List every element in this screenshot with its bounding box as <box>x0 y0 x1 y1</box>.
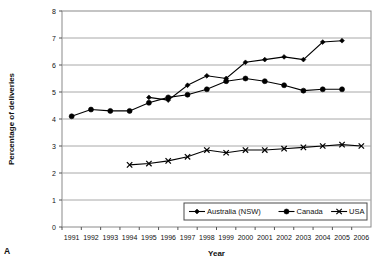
y-tick-label: 0 <box>52 224 56 231</box>
data-point-marker <box>108 108 113 113</box>
x-tick-label: 2000 <box>238 234 254 241</box>
x-tick-label: 1997 <box>180 234 196 241</box>
data-point-marker <box>284 209 289 214</box>
chart-figure: 0123456781991199219931994199519961997199… <box>0 0 377 263</box>
y-tick-label: 2 <box>52 170 56 177</box>
data-point-marker <box>320 87 325 92</box>
data-point-marker <box>204 87 209 92</box>
x-tick-label: 1996 <box>160 234 176 241</box>
x-tick-label: 2006 <box>354 234 370 241</box>
x-tick-label: 2003 <box>296 234 312 241</box>
x-tick-label: 1995 <box>141 234 157 241</box>
x-tick-label: 1993 <box>102 234 118 241</box>
legend-label: Canada <box>297 207 324 216</box>
y-tick-label: 4 <box>52 116 56 123</box>
x-tick-label: 1998 <box>199 234 215 241</box>
legend-label: USA <box>349 207 364 216</box>
x-tick-label: 2005 <box>334 234 350 241</box>
x-tick-label: 1991 <box>64 234 80 241</box>
x-tick-label: 2001 <box>257 234 273 241</box>
x-axis-title: Year <box>208 249 225 258</box>
chart-legend: Australia (NSW)CanadaUSA <box>184 203 367 220</box>
y-axis-title: Percentage of deliveries <box>7 72 16 165</box>
x-tick-label: 2004 <box>315 234 331 241</box>
x-tick-label: 1992 <box>83 234 99 241</box>
data-point-marker <box>224 79 229 84</box>
data-point-marker <box>243 76 248 81</box>
data-point-marker <box>262 79 267 84</box>
data-point-marker <box>166 95 171 100</box>
legend-label: Australia (NSW) <box>207 207 261 216</box>
y-tick-label: 3 <box>52 143 56 150</box>
data-point-marker <box>185 92 190 97</box>
line-chart: 0123456781991199219931994199519961997199… <box>0 0 377 263</box>
data-point-marker <box>69 114 74 119</box>
data-point-marker <box>127 108 132 113</box>
x-tick-label: 1994 <box>122 234 138 241</box>
x-tick-label: 2002 <box>276 234 292 241</box>
y-tick-label: 5 <box>52 89 56 96</box>
panel-label: A <box>4 246 10 256</box>
data-point-marker <box>282 83 287 88</box>
y-tick-label: 8 <box>52 8 56 15</box>
y-tick-label: 1 <box>52 197 56 204</box>
y-tick-label: 6 <box>52 62 56 69</box>
x-tick-label: 1999 <box>218 234 234 241</box>
data-point-marker <box>88 107 93 112</box>
data-point-marker <box>146 100 151 105</box>
data-point-marker <box>301 88 306 93</box>
y-tick-label: 7 <box>52 35 56 42</box>
data-point-marker <box>340 87 345 92</box>
